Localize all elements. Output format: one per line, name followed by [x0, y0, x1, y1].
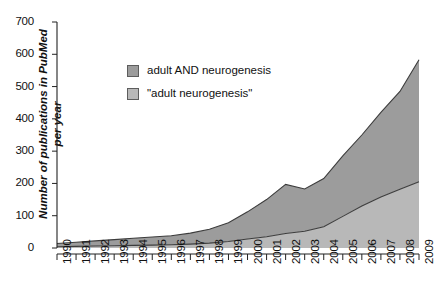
y-tick-label-0: 0 [0, 242, 34, 254]
y-tick-label-700: 700 [0, 16, 34, 28]
x-tick-label-2008: 2008 [405, 239, 417, 264]
y-tick-label-400: 400 [0, 113, 34, 125]
x-tick-label-1992: 1992 [100, 239, 112, 264]
y-tick-label-500: 500 [0, 81, 34, 93]
publications-area-chart: Number of publications in PubMed per yea… [0, 0, 438, 301]
legend-swatch-lower [127, 88, 139, 100]
y-tick-label-300: 300 [0, 145, 34, 157]
x-tick-label-1991: 1991 [81, 239, 93, 264]
x-tick-label-1994: 1994 [138, 239, 150, 264]
x-tick-label-1997: 1997 [195, 239, 207, 264]
y-tick-label-100: 100 [0, 210, 34, 222]
x-tick-label-1996: 1996 [176, 239, 188, 264]
x-tick-label-2004: 2004 [329, 239, 341, 264]
x-tick-label-2002: 2002 [291, 239, 303, 264]
x-tick-label-2009: 2009 [424, 239, 436, 264]
x-tick-label-1995: 1995 [157, 239, 169, 264]
chart-legend: adult AND neurogenesis "adult neurogenes… [127, 64, 271, 110]
y-tick-label-200: 200 [0, 177, 34, 189]
x-tick-label-2003: 2003 [310, 239, 322, 264]
x-tick-label-1998: 1998 [214, 239, 226, 264]
x-tick-label-2001: 2001 [272, 239, 284, 264]
x-tick-label-2007: 2007 [386, 239, 398, 264]
legend-item-adult-neurogenesis: "adult neurogenesis" [127, 87, 271, 101]
legend-item-adult-and-neurogenesis: adult AND neurogenesis [127, 64, 271, 78]
x-tick-label-1993: 1993 [119, 239, 131, 264]
legend-swatch-upper [127, 65, 139, 77]
x-tick-label-2005: 2005 [348, 239, 360, 264]
x-tick-label-2000: 2000 [253, 239, 265, 264]
legend-label-upper: adult AND neurogenesis [147, 65, 271, 77]
legend-label-lower: "adult neurogenesis" [147, 88, 252, 100]
x-tick-label-1999: 1999 [233, 239, 245, 264]
y-tick-label-600: 600 [0, 48, 34, 60]
x-tick-label-1990: 1990 [62, 239, 74, 264]
x-tick-label-2006: 2006 [367, 239, 379, 264]
